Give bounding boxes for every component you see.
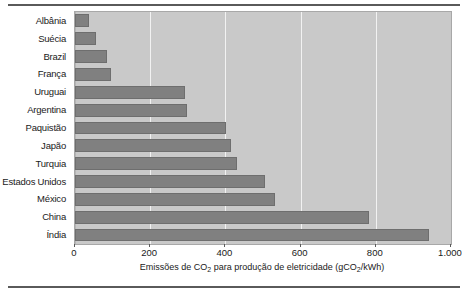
bar [75, 32, 96, 45]
y-axis-label: Turquia [36, 157, 66, 168]
x-axis-title-part-b: para produção de eletricidade (gCO [211, 262, 357, 272]
bottom-divider-rule [8, 286, 460, 288]
y-axis-label: França [38, 68, 66, 79]
bar [75, 193, 275, 206]
gridline-1000 [451, 12, 452, 244]
y-axis-label: Argentina [27, 104, 66, 115]
x-axis-title-part-c: /kWh) [361, 262, 385, 272]
x-tick-label: 800 [367, 247, 383, 258]
bar-series [75, 12, 451, 244]
bar [75, 122, 226, 135]
bar [75, 157, 237, 170]
x-tick-label: 400 [216, 247, 232, 258]
y-axis-label: Índia [46, 229, 66, 240]
chart-figure: AlbâniaSuéciaBrazilFrançaUruguaiArgentin… [0, 0, 468, 291]
x-tick-label: 200 [141, 247, 157, 258]
bar [75, 68, 111, 81]
bar [75, 211, 369, 224]
x-tick-label: 1.000 [438, 247, 462, 258]
bar [75, 14, 89, 27]
y-axis-label: Suécia [38, 32, 66, 43]
x-axis-ticks: 02004006008001.000 [74, 244, 450, 258]
y-axis-label: China [42, 211, 66, 222]
x-axis-title-sub-2: 2 [357, 266, 361, 273]
bar [75, 139, 231, 152]
bar [75, 229, 429, 242]
y-axis-label: Paquistão [26, 122, 66, 133]
y-axis-label: México [37, 193, 66, 204]
bar [75, 175, 265, 188]
bar [75, 50, 107, 63]
plot-area [74, 11, 452, 245]
bar [75, 86, 185, 99]
top-divider-rule [8, 4, 460, 6]
bar [75, 104, 187, 117]
y-axis-category-labels: AlbâniaSuéciaBrazilFrançaUruguaiArgentin… [0, 11, 70, 243]
x-axis-title-part-a: Emissões de CO [140, 262, 208, 272]
y-axis-label: Albânia [36, 14, 66, 25]
y-axis-label: Brazil [43, 50, 66, 61]
x-tick-label: 600 [292, 247, 308, 258]
y-axis-label: Japão [41, 139, 66, 150]
x-axis-title-sub-1: 2 [207, 266, 211, 273]
y-axis-label: Uruguai [34, 86, 66, 97]
x-tick-label: 0 [71, 247, 76, 258]
y-axis-label: Estados Unidos [2, 175, 66, 186]
x-axis-title: Emissões de CO2 para produção de eletric… [74, 262, 450, 272]
